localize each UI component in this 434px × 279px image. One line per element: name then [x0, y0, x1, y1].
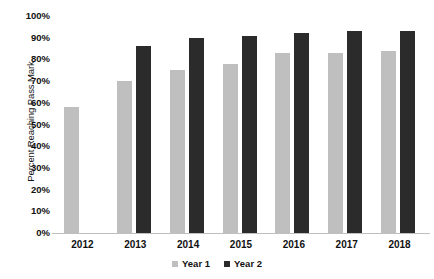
- y-tick-label: 30%: [6, 163, 50, 173]
- legend-item-year-1[interactable]: Year 1: [172, 258, 210, 269]
- y-tick-label: 0%: [6, 228, 50, 238]
- bar-chart: Percent Reaching Pass Mark 100%90%80%70%…: [0, 0, 434, 279]
- y-tick-label: 60%: [6, 98, 50, 108]
- y-tick-label: 40%: [6, 141, 50, 151]
- x-axis-tick-labels: 2012201320142015201620172018: [56, 0, 426, 279]
- y-tick-label: 50%: [6, 120, 50, 130]
- y-tick-label: 100%: [6, 11, 50, 21]
- x-tick-label: 2012: [56, 239, 109, 250]
- x-tick-label: 2016: [267, 239, 320, 250]
- x-tick-label: 2014: [162, 239, 215, 250]
- legend-label: Year 1: [182, 258, 210, 269]
- legend-label: Year 2: [234, 258, 262, 269]
- x-tick-label: 2013: [109, 239, 162, 250]
- x-tick-label: 2018: [373, 239, 426, 250]
- legend-item-year-2[interactable]: Year 2: [224, 258, 262, 269]
- y-axis-tick-labels: 100%90%80%70%60%50%40%30%20%10%0%: [0, 0, 50, 279]
- y-tick-label: 20%: [6, 185, 50, 195]
- y-tick-label: 10%: [6, 206, 50, 216]
- x-tick-label: 2015: [215, 239, 268, 250]
- x-tick-label: 2017: [320, 239, 373, 250]
- y-tick-label: 70%: [6, 76, 50, 86]
- y-tick-label: 90%: [6, 33, 50, 43]
- legend-swatch-icon: [172, 261, 178, 267]
- chart-legend: Year 1Year 2: [0, 258, 434, 269]
- y-tick-label: 80%: [6, 54, 50, 64]
- legend-swatch-icon: [224, 261, 230, 267]
